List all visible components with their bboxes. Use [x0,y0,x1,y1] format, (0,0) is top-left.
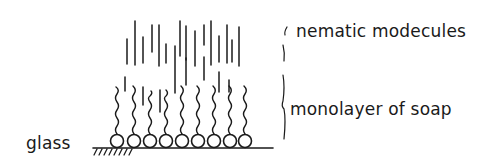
glass-hatch-marks [94,149,132,155]
label-glass: glass [26,133,71,153]
soap-tails [116,86,247,134]
brace-nematic [283,27,287,61]
label-nematic-molecules: nematic modecules [296,21,466,41]
soap-heads [111,135,252,148]
nematic-rods [125,21,239,112]
brace-monolayer [282,75,285,139]
label-monolayer-of-soap: monolayer of soap [290,99,452,119]
